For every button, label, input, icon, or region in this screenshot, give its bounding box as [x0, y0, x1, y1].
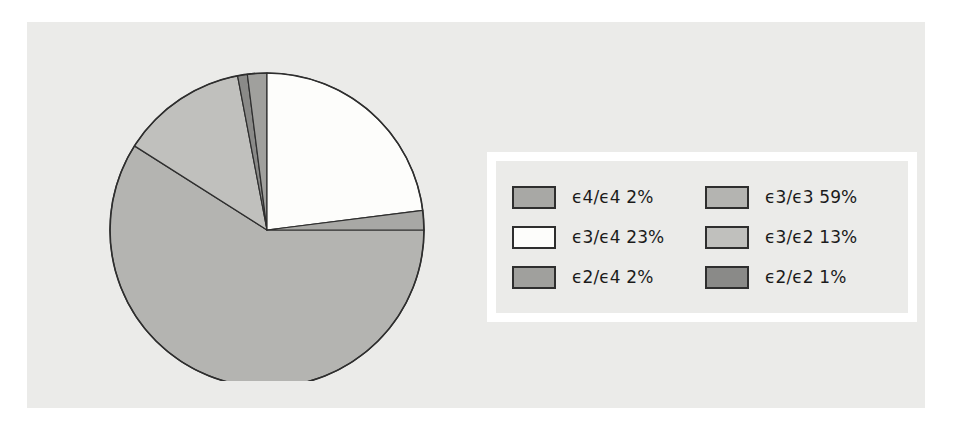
legend-item-label: ϵ2/ϵ4 2%: [572, 267, 653, 287]
legend-item[interactable]: ϵ3/ϵ3 59%: [705, 186, 898, 209]
legend-swatch-icon: [512, 266, 556, 289]
legend-item[interactable]: ϵ2/ϵ4 2%: [512, 266, 705, 289]
legend-swatch-icon: [705, 266, 749, 289]
pie-chart-area: [82, 51, 452, 381]
pie-slice[interactable]: [267, 73, 423, 230]
legend-item-label: ϵ3/ϵ2 13%: [765, 227, 857, 247]
legend-item-label: ϵ3/ϵ3 59%: [765, 187, 857, 207]
legend-column-left: ϵ4/ϵ4 2% ϵ3/ϵ4 23% ϵ2/ϵ4 2%: [512, 186, 705, 289]
legend-swatch-icon: [512, 226, 556, 249]
legend-item-label: ϵ2/ϵ2 1%: [765, 267, 846, 287]
pie-chart-svg: [82, 51, 452, 381]
legend-item[interactable]: ϵ3/ϵ4 23%: [512, 226, 705, 249]
legend-swatch-icon: [705, 226, 749, 249]
legend-item[interactable]: ϵ3/ϵ2 13%: [705, 226, 898, 249]
legend-box: ϵ4/ϵ4 2% ϵ3/ϵ4 23% ϵ2/ϵ4 2% ϵ3/ϵ3 59%: [487, 152, 917, 322]
legend-inner: ϵ4/ϵ4 2% ϵ3/ϵ4 23% ϵ2/ϵ4 2% ϵ3/ϵ3 59%: [496, 161, 908, 313]
legend-item[interactable]: ϵ2/ϵ2 1%: [705, 266, 898, 289]
legend-item-label: ϵ3/ϵ4 23%: [572, 227, 664, 247]
pie-slice-group: [110, 73, 424, 381]
legend-item-label: ϵ4/ϵ4 2%: [572, 187, 653, 207]
legend-swatch-icon: [705, 186, 749, 209]
legend-column-right: ϵ3/ϵ3 59% ϵ3/ϵ2 13% ϵ2/ϵ2 1%: [705, 186, 898, 289]
pie-chart-figure: ϵ4/ϵ4 2% ϵ3/ϵ4 23% ϵ2/ϵ4 2% ϵ3/ϵ3 59%: [0, 0, 955, 437]
legend-item[interactable]: ϵ4/ϵ4 2%: [512, 186, 705, 209]
chart-panel: ϵ4/ϵ4 2% ϵ3/ϵ4 23% ϵ2/ϵ4 2% ϵ3/ϵ3 59%: [27, 22, 925, 408]
legend-swatch-icon: [512, 186, 556, 209]
